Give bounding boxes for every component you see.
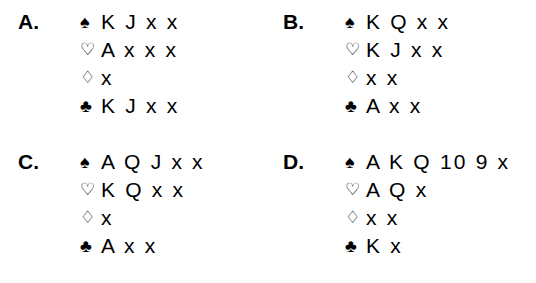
heart-cards: K Q x x: [101, 176, 185, 204]
heart-icon: ♡: [80, 176, 101, 204]
spade-cards: K Q x x: [366, 8, 450, 36]
spade-cards: K J x x: [101, 8, 179, 36]
heart-icon: ♡: [345, 36, 366, 64]
suit-line-hearts: ♡ K J x x: [345, 36, 450, 64]
suit-line-hearts: ♡ K Q x x: [80, 176, 205, 204]
diamond-icon: ♢: [80, 64, 101, 92]
spade-icon: ♠: [345, 148, 366, 176]
suit-line-hearts: ♡ A x x x: [80, 36, 179, 64]
club-cards: A x x: [366, 92, 423, 120]
spade-icon: ♠: [80, 148, 101, 176]
suit-line-diamonds: ♢ x: [80, 64, 179, 92]
suit-lines-d: ♠ A K Q 10 9 x ♡ A Q x ♢ x x ♣ K x: [345, 148, 510, 260]
diamond-cards: x x: [366, 204, 399, 232]
hand-block-d: D. ♠ A K Q 10 9 x ♡ A Q x ♢ x x ♣ K x: [283, 148, 510, 260]
hand-block-c: C. ♠ A Q J x x ♡ K Q x x ♢ x ♣ A x x: [18, 148, 205, 260]
suit-line-diamonds: ♢ x x: [345, 204, 510, 232]
club-cards: K x: [366, 232, 403, 260]
club-icon: ♣: [80, 92, 101, 120]
suit-line-diamonds: ♢ x x: [345, 64, 450, 92]
club-icon: ♣: [345, 92, 366, 120]
suit-line-clubs: ♣ K J x x: [80, 92, 179, 120]
diamond-icon: ♢: [345, 204, 366, 232]
hand-block-a: A. ♠ K J x x ♡ A x x x ♢ x ♣ K J x x: [18, 8, 179, 120]
suit-lines-b: ♠ K Q x x ♡ K J x x ♢ x x ♣ A x x: [345, 8, 450, 120]
suit-lines-a: ♠ K J x x ♡ A x x x ♢ x ♣ K J x x: [80, 8, 179, 120]
club-icon: ♣: [80, 232, 101, 260]
spade-icon: ♠: [80, 8, 101, 36]
hand-block-b: B. ♠ K Q x x ♡ K J x x ♢ x x ♣ A x x: [283, 8, 450, 120]
club-cards: A x x: [101, 232, 158, 260]
spade-cards: A K Q 10 9 x: [366, 148, 510, 176]
suit-line-clubs: ♣ K x: [345, 232, 510, 260]
hand-label-c: C.: [18, 148, 80, 176]
diamond-cards: x x: [366, 64, 399, 92]
hand-label-a: A.: [18, 8, 80, 36]
suit-line-diamonds: ♢ x: [80, 204, 205, 232]
heart-cards: A Q x: [366, 176, 428, 204]
suit-line-spades: ♠ A K Q 10 9 x: [345, 148, 510, 176]
diamond-icon: ♢: [80, 204, 101, 232]
heart-icon: ♡: [80, 36, 101, 64]
diamond-icon: ♢: [345, 64, 366, 92]
hand-label-b: B.: [283, 8, 345, 36]
club-icon: ♣: [345, 232, 366, 260]
heart-icon: ♡: [345, 176, 366, 204]
diamond-cards: x: [101, 64, 114, 92]
suit-line-clubs: ♣ A x x: [345, 92, 450, 120]
suit-lines-c: ♠ A Q J x x ♡ K Q x x ♢ x ♣ A x x: [80, 148, 205, 260]
suit-line-spades: ♠ A Q J x x: [80, 148, 205, 176]
hand-label-d: D.: [283, 148, 345, 176]
diamond-cards: x: [101, 204, 114, 232]
spade-icon: ♠: [345, 8, 366, 36]
suit-line-spades: ♠ K J x x: [80, 8, 179, 36]
heart-cards: A x x x: [101, 36, 178, 64]
bridge-hands-diagram: A. ♠ K J x x ♡ A x x x ♢ x ♣ K J x x B.: [0, 0, 536, 283]
suit-line-clubs: ♣ A x x: [80, 232, 205, 260]
spade-cards: A Q J x x: [101, 148, 205, 176]
suit-line-hearts: ♡ A Q x: [345, 176, 510, 204]
suit-line-spades: ♠ K Q x x: [345, 8, 450, 36]
club-cards: K J x x: [101, 92, 179, 120]
heart-cards: K J x x: [366, 36, 444, 64]
